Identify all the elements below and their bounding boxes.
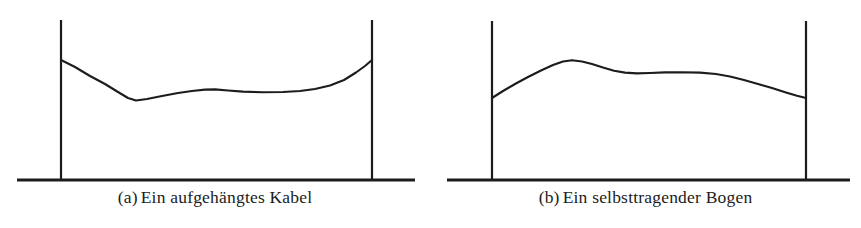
panel-a-caption-tag: (a) [118,187,138,207]
panel-b-caption-text: Ein selbsttragender Bogen [563,187,753,207]
hanging-cable-curve [61,60,372,101]
panel-b-caption-tag: (b) [539,187,560,207]
figure-panel-b: (b)Ein selbsttragender Bogen [430,0,861,228]
panel-b-drawing [430,0,861,186]
figure-container: (a)Ein aufgehängtes Kabel (b)Ein selbstt… [0,0,861,228]
panel-b-caption: (b)Ein selbsttragender Bogen [430,186,861,208]
self-supporting-arch-curve [492,60,806,98]
panel-a-caption: (a)Ein aufgehängtes Kabel [0,186,430,208]
figure-panel-a: (a)Ein aufgehängtes Kabel [0,0,430,228]
panel-a-drawing [0,0,430,186]
panel-a-caption-text: Ein aufgehängtes Kabel [141,187,313,207]
